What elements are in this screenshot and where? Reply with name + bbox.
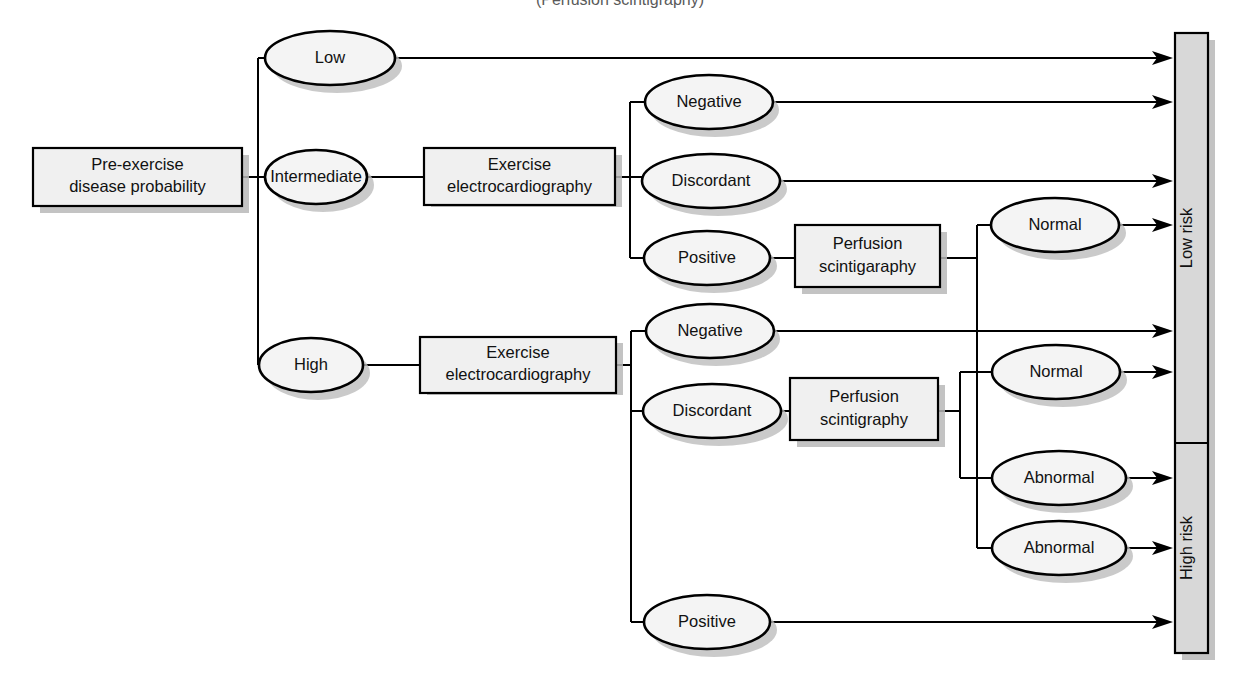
node-probability-intermediate[interactable]: Intermediate <box>265 150 367 204</box>
probability-intermediate-label: Intermediate <box>270 167 362 185</box>
node-perfusion-scintigaraphy-upper[interactable]: Perfusion scintigaraphy <box>795 225 940 287</box>
perf-upper-normal-label: Normal <box>1028 215 1081 233</box>
int-discordant-label: Discordant <box>672 171 751 189</box>
node-int-result-negative[interactable]: Negative <box>645 75 773 129</box>
ecg-intermediate-line1: Exercise <box>488 155 551 173</box>
node-pre-exercise-probability[interactable]: Pre-exercise disease probability <box>33 148 242 206</box>
node-high-result-positive[interactable]: Positive <box>644 595 770 649</box>
perfusion-upper-line1: Perfusion <box>833 234 903 252</box>
int-positive-label: Positive <box>678 248 736 266</box>
node-perf-lower-abnormal[interactable]: Abnormal <box>992 451 1126 505</box>
probability-low-label: Low <box>315 48 345 66</box>
flowchart-diagram: (Perfusion scintigraphy) <box>0 0 1240 686</box>
node-probability-low[interactable]: Low <box>265 31 395 85</box>
node-int-result-positive[interactable]: Positive <box>644 231 770 285</box>
node-int-result-discordant[interactable]: Discordant <box>642 154 780 208</box>
node-perf-lower-normal[interactable]: Normal <box>992 345 1120 399</box>
high-negative-label: Negative <box>677 321 742 339</box>
diagram-canvas: Pre-exercise disease probability Low Int… <box>0 0 1240 686</box>
node-probability-high[interactable]: High <box>259 338 363 392</box>
node-perf-upper-abnormal[interactable]: Abnormal <box>992 521 1126 575</box>
risk-segment-high-label: High risk <box>1177 515 1195 580</box>
node-exercise-ecg-intermediate[interactable]: Exercise electrocardiography <box>424 148 615 205</box>
probability-high-label: High <box>294 355 328 373</box>
high-positive-label: Positive <box>678 612 736 630</box>
node-exercise-ecg-high[interactable]: Exercise electrocardiography <box>420 337 616 393</box>
outcome-risk-bar: Low risk High risk <box>1175 33 1208 653</box>
ecg-intermediate-line2: electrocardiography <box>447 177 593 195</box>
perfusion-lower-line1: Perfusion <box>829 387 899 405</box>
high-discordant-label: Discordant <box>673 401 752 419</box>
risk-segment-low-label: Low risk <box>1177 207 1195 268</box>
ecg-high-line1: Exercise <box>486 343 549 361</box>
node-perf-upper-normal[interactable]: Normal <box>991 198 1119 252</box>
perf-lower-normal-label: Normal <box>1029 362 1082 380</box>
node-high-result-negative[interactable]: Negative <box>646 304 774 358</box>
pre-exercise-line2: disease probability <box>69 177 206 195</box>
node-perfusion-scintigraphy-lower[interactable]: Perfusion scintigraphy <box>790 378 938 440</box>
int-negative-label: Negative <box>676 92 741 110</box>
perfusion-upper-line2: scintigaraphy <box>819 257 917 275</box>
pre-exercise-line1: Pre-exercise <box>91 155 184 173</box>
perf-lower-abnormal-label: Abnormal <box>1024 468 1095 486</box>
perfusion-lower-line2: scintigraphy <box>820 410 909 428</box>
ecg-high-line2: electrocardiography <box>446 365 592 383</box>
perf-upper-abnormal-label: Abnormal <box>1024 538 1095 556</box>
node-high-result-discordant[interactable]: Discordant <box>643 384 781 438</box>
